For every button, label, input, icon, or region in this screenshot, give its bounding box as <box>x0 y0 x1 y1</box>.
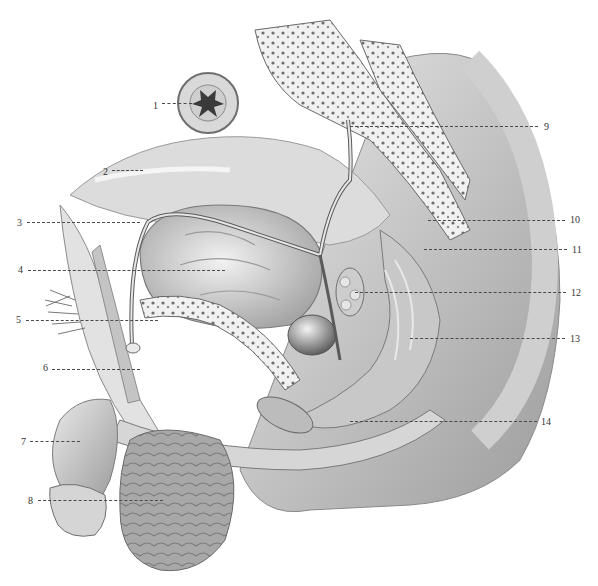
callout-label-10: 10 <box>570 215 580 225</box>
callout-label-5: 5 <box>16 315 21 325</box>
leader-line-1 <box>162 103 192 104</box>
callout-label-14: 14 <box>541 417 551 427</box>
callout-label-2: 2 <box>103 167 108 177</box>
callout-label-13: 13 <box>570 334 580 344</box>
leader-line-8 <box>38 500 163 501</box>
leader-line-13 <box>410 338 565 339</box>
callout-label-12: 12 <box>571 288 581 298</box>
leader-line-12 <box>355 292 566 293</box>
leader-line-9 <box>350 126 538 127</box>
leader-line-5 <box>26 320 158 321</box>
callout-label-11: 11 <box>572 245 582 255</box>
leader-line-2 <box>112 170 143 171</box>
callout-label-9: 9 <box>544 122 549 132</box>
pelvis-sagittal-illustration <box>0 0 598 586</box>
leader-line-4 <box>28 270 225 271</box>
leader-line-11 <box>424 249 567 250</box>
anatomical-figure: 1234567891011121314 <box>0 0 598 586</box>
callout-label-3: 3 <box>17 218 22 228</box>
callout-label-4: 4 <box>18 265 23 275</box>
penis <box>50 399 118 536</box>
leader-line-6 <box>52 369 140 370</box>
leader-line-7 <box>30 441 80 442</box>
callout-label-8: 8 <box>28 496 33 506</box>
callout-label-7: 7 <box>21 437 26 447</box>
leader-line-10 <box>428 220 565 221</box>
prostate <box>288 315 336 355</box>
leader-line-3 <box>27 222 140 223</box>
callout-label-1: 1 <box>153 101 158 111</box>
callout-label-6: 6 <box>43 363 48 373</box>
leader-line-14 <box>350 421 537 422</box>
